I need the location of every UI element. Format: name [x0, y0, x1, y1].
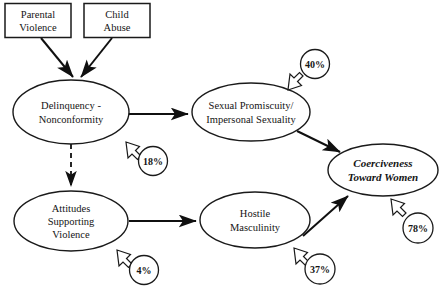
parental-violence-line2: Violence: [19, 22, 57, 33]
hostile-masculinity-line2: Masculinity: [230, 222, 281, 233]
badge-pct-hostile-masculinity: 37%: [294, 248, 335, 284]
pct-delinquency-value: 18%: [143, 156, 163, 167]
coerciveness-line2: Toward Women: [348, 171, 418, 183]
pct-sexual-promiscuity-value: 40%: [305, 59, 325, 70]
node-hostile-masculinity[interactable]: Hostile Masculinity: [200, 192, 310, 248]
delinquency-line1: Delinquency -: [41, 100, 101, 111]
badge-pct-attitudes: 4%: [117, 250, 159, 285]
sexual-promiscuity-line2: Impersonal Sexuality: [206, 114, 296, 125]
hostile-masculinity-line1: Hostile: [240, 208, 271, 219]
attitudes-line1: Attitudes: [52, 203, 91, 214]
child-abuse-line2: Abuse: [104, 22, 131, 33]
badge-pct-sexual-promiscuity: 40%: [288, 50, 330, 91]
node-attitudes-supporting-violence[interactable]: Attitudes Supporting Violence: [14, 191, 128, 251]
sexual-promiscuity-line1: Sexual Promiscuity/: [209, 100, 294, 111]
pct-attitudes-value: 4%: [137, 265, 152, 276]
path-diagram: Parental Violence Child Abuse Delinquenc…: [0, 0, 446, 293]
child-abuse-line1: Child: [105, 9, 129, 20]
pct-coerciveness-value: 78%: [408, 223, 428, 234]
node-coerciveness-toward-women[interactable]: Coerciveness Toward Women: [328, 144, 438, 196]
parental-violence-line1: Parental: [21, 9, 55, 20]
link-sexual-promiscuity-to-coerciveness: [297, 131, 340, 152]
badge-pct-delinquency: 18%: [126, 142, 168, 176]
delinquency-line2: Nonconformity: [39, 114, 104, 125]
link-parental-violence-to-delinquency: [41, 38, 73, 77]
node-delinquency[interactable]: Delinquency - Nonconformity: [13, 80, 129, 144]
badge-pct-coerciveness: 78%: [391, 199, 433, 243]
node-child-abuse[interactable]: Child Abuse: [84, 4, 150, 38]
attitudes-line2: Supporting: [48, 216, 95, 227]
node-parental-violence[interactable]: Parental Violence: [5, 4, 71, 38]
node-sexual-promiscuity[interactable]: Sexual Promiscuity/ Impersonal Sexuality: [192, 83, 310, 141]
coerciveness-line1: Coerciveness: [353, 157, 412, 169]
pct-hostile-masculinity-value: 37%: [310, 264, 330, 275]
diagram-canvas: Parental Violence Child Abuse Delinquenc…: [0, 0, 446, 293]
attitudes-line3: Violence: [52, 229, 90, 240]
link-child-abuse-to-delinquency: [81, 38, 112, 77]
